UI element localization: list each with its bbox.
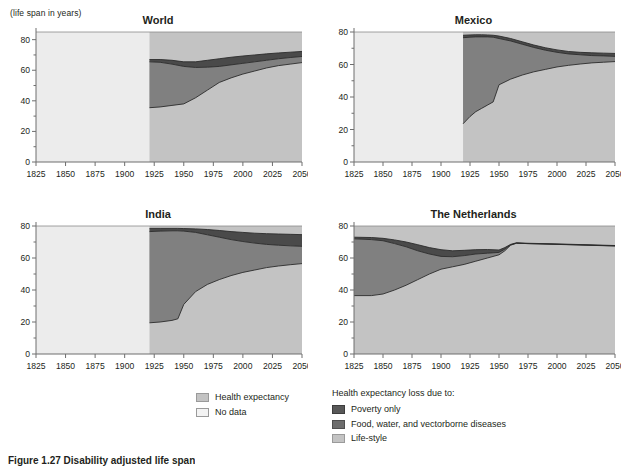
x-tick-label: 2025 [263,169,282,179]
legend-label: Poverty only [351,404,401,415]
y-tick-label: 60 [20,253,30,263]
x-tick-label: 2000 [547,169,566,179]
x-tick-label: 1825 [26,361,45,371]
x-tick-label: 1975 [518,361,537,371]
y-tick-label: 20 [20,126,30,136]
x-tick-label: 1975 [518,169,537,179]
x-tick-label: 2025 [576,361,595,371]
y-tick-label: 80 [338,221,348,231]
legend-health-expectancy-loss-item: Life-style [332,433,612,444]
y-tick-label: 60 [338,253,348,263]
figure-caption: Figure 1.27 Disability adjusted life spa… [8,455,195,466]
legend-swatch-icon [332,405,345,414]
x-tick-label: 1975 [204,169,223,179]
legend-label: Food, water, and vectorborne diseases [351,419,506,430]
y-tick-label: 60 [20,65,30,75]
chart-panel-mexico: Mexico 020406080182518501875190019251950… [326,14,621,194]
x-tick-label: 1875 [402,361,421,371]
x-tick-label: 1825 [26,169,45,179]
legend-label: Life-style [351,433,387,444]
legend-health-expectancy-loss-item: Poverty only [332,404,612,415]
x-tick-label: 1850 [56,169,75,179]
legend-health-expectancy: Health expectancyNo data [196,392,326,421]
legend-heading: Health expectancy loss due to: [332,388,612,398]
y-tick-label: 40 [338,92,348,102]
y-tick-label: 0 [343,157,348,167]
y-tick-label: 40 [338,285,348,295]
x-tick-label: 1875 [402,169,421,179]
x-tick-label: 1875 [86,169,105,179]
x-tick-label: 1825 [344,169,363,179]
x-tick-label: 1900 [115,361,134,371]
y-tick-label: 0 [343,349,348,359]
x-tick-label: 1950 [174,169,193,179]
y-tick-label: 0 [25,349,30,359]
y-tick-label: 80 [338,27,348,37]
y-tick-label: 20 [20,317,30,327]
x-tick-label: 1950 [489,361,508,371]
chart-panel-world: World 0204060801825185018751900192519501… [8,14,308,194]
x-tick-label: 1925 [460,361,479,371]
legend-label: Health expectancy [215,392,289,403]
x-tick-label: 1950 [174,361,193,371]
x-tick-label: 2050 [292,361,308,371]
legend-swatch-icon [196,408,209,417]
chart-panel-netherlands: The Netherlands 020406080182518501875190… [326,208,621,386]
x-tick-label: 1850 [373,169,392,179]
x-tick-label: 2050 [605,361,621,371]
x-tick-label: 1950 [489,169,508,179]
x-tick-label: 1825 [344,361,363,371]
plot-area-india: 0204060801825185018751900192519501975200… [8,208,308,386]
x-tick-label: 2025 [576,169,595,179]
x-tick-label: 1900 [115,169,134,179]
legend-swatch-icon [196,393,209,402]
x-tick-label: 1850 [56,361,75,371]
x-tick-label: 2050 [292,169,308,179]
x-tick-label: 1900 [431,169,450,179]
x-tick-label: 2025 [263,361,282,371]
chart-panel-india: India 0204060801825185018751900192519501… [8,208,308,386]
legend-health-expectancy-loss-item: Food, water, and vectorborne diseases [332,419,612,430]
x-tick-label: 1925 [145,361,164,371]
x-tick-label: 2000 [233,361,252,371]
y-tick-label: 20 [338,317,348,327]
x-tick-label: 1925 [145,169,164,179]
y-tick-label: 20 [338,125,348,135]
y-tick-label: 0 [25,157,30,167]
no-data-region [36,226,149,354]
legend-swatch-icon [332,434,345,443]
y-tick-label: 40 [20,96,30,106]
legend-label: No data [215,407,247,418]
x-tick-label: 1875 [86,361,105,371]
legend-health-expectancy-item: Health expectancy [196,392,326,403]
plot-area-the-netherlands: 0204060801825185018751900192519501975200… [326,208,621,386]
x-tick-label: 2050 [605,169,621,179]
x-tick-label: 2000 [547,361,566,371]
x-tick-label: 1900 [431,361,450,371]
x-tick-label: 1850 [373,361,392,371]
no-data-region [354,32,463,162]
y-tick-label: 60 [338,60,348,70]
x-tick-label: 2000 [233,169,252,179]
no-data-region [36,32,149,162]
y-tick-label: 80 [20,221,30,231]
y-tick-label: 40 [20,285,30,295]
plot-area-world: 0204060801825185018751900192519501975200… [8,14,308,194]
x-tick-label: 1975 [204,361,223,371]
x-tick-label: 1925 [460,169,479,179]
legend-health-expectancy-loss: Health expectancy loss due to: Poverty o… [332,388,612,448]
legend-swatch-icon [332,420,345,429]
plot-area-mexico: 0204060801825185018751900192519501975200… [326,14,621,194]
legend-health-expectancy-item: No data [196,407,326,418]
y-tick-label: 80 [20,35,30,45]
